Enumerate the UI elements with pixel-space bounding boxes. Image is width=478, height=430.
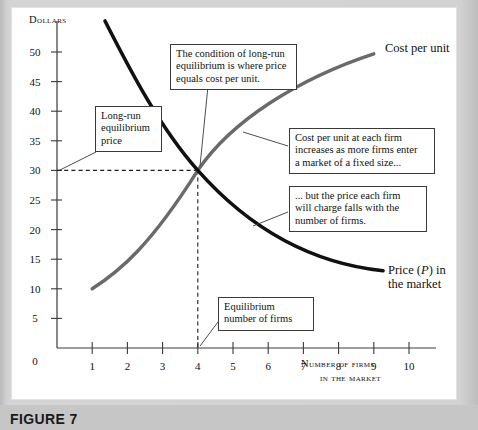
x-tick-label: 4: [188, 360, 208, 372]
y-tick-label: 50: [24, 46, 46, 58]
callout-line: equals cost per unit.: [176, 73, 291, 85]
price-curve-label: Price (P) in the market: [388, 263, 446, 291]
price-label-prefix: Price (: [388, 263, 421, 277]
x-tick-label: 2: [117, 360, 137, 372]
x-tick-label: 6: [258, 360, 278, 372]
y-tick-label: 35: [24, 135, 46, 147]
cost-per-unit-curve-label: Cost per unit: [385, 41, 450, 55]
x-axis-title-line2: in the market: [320, 372, 381, 383]
x-tick-label: 8: [329, 360, 349, 372]
callout-line: number of firms: [224, 313, 308, 325]
callout-line: ... but the price each firm: [295, 190, 421, 202]
y-tick-label: 20: [24, 224, 46, 236]
callout-line: Cost per unit at each firm: [295, 132, 429, 144]
callout-line: Long-run: [101, 110, 156, 122]
x-tick-label: 3: [153, 360, 173, 372]
y-tick-label: 40: [24, 105, 46, 117]
figure-screenshot: Dollars Number of firms in the market 50…: [0, 0, 478, 430]
callout-condition-of-long-run-equilibrium: The condition of long-run equilibrium is…: [170, 44, 297, 90]
callout-line: a market of a fixed size...: [295, 157, 429, 169]
callout-price-falls-explanation: ... but the price each firm will charge …: [289, 186, 427, 232]
x-tick-label: 9: [364, 360, 384, 372]
y-tick-label: 45: [24, 76, 46, 88]
callout-long-run-equilibrium-price: Long-run equilibrium price: [95, 106, 162, 152]
figure-caption: FIGURE 7: [10, 411, 78, 427]
callout-line: equilibrium is where price: [176, 60, 291, 72]
x-tick-label: 1: [82, 360, 102, 372]
callout-line: number of firms.: [295, 215, 421, 227]
x-tick-label: 10: [399, 360, 419, 372]
y-tick-label: 10: [24, 283, 46, 295]
callout-line: The condition of long-run: [176, 48, 291, 60]
price-curve-label-line2: the market: [388, 277, 446, 291]
callout-line: increases as more firms enter: [295, 144, 429, 156]
y-tick-label: 30: [24, 164, 46, 176]
callout-cost-per-unit-explanation: Cost per unit at each firm increases as …: [289, 128, 435, 174]
price-curve-label-line1: Price (P) in: [388, 263, 446, 277]
y-tick-label: 25: [24, 194, 46, 206]
price-label-variable: P: [421, 263, 429, 277]
price-label-suffix: ) in: [429, 263, 446, 277]
x-tick-label: 7: [293, 360, 313, 372]
callout-line: price: [101, 135, 156, 147]
callout-line: will charge falls with the: [295, 202, 421, 214]
callout-line: equilibrium: [101, 122, 156, 134]
callout-line: Equilibrium: [224, 301, 308, 313]
y-axis-title: Dollars: [29, 14, 67, 25]
y-tick-label: 5: [24, 312, 46, 324]
y-tick-label: 15: [24, 253, 46, 265]
callout-equilibrium-number-of-firms: Equilibrium number of firms: [218, 297, 314, 331]
x-tick-label: 5: [223, 360, 243, 372]
y-tick-label: 0: [24, 355, 46, 367]
